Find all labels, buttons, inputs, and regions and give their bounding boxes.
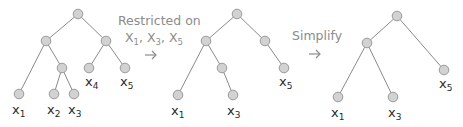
leaf-label: x2 — [47, 102, 60, 119]
tree-node — [362, 38, 372, 48]
tree-node — [201, 36, 211, 46]
tree-edge — [237, 14, 265, 41]
right-arrow-icon — [309, 50, 320, 58]
tree-node — [41, 36, 51, 46]
right-arrow-icon — [145, 51, 156, 59]
tree-edge — [78, 14, 106, 41]
tree-node — [57, 63, 67, 73]
tree-node — [392, 11, 402, 21]
leaf-label: x1 — [331, 105, 344, 122]
tree-node — [217, 63, 227, 73]
tree-node — [260, 36, 270, 46]
step-simplify: Simplify — [292, 28, 343, 58]
leaf-label: x1 — [12, 102, 25, 119]
leaf-label: x5 — [120, 74, 133, 91]
restrict-vars: X1, X3, X5 — [125, 30, 183, 47]
simplify-caption: Simplify — [292, 28, 343, 43]
leaf-label: x5 — [439, 76, 452, 93]
tree-edge — [367, 16, 397, 43]
tree-node — [84, 63, 94, 73]
tree-node — [120, 63, 130, 73]
tree-edge — [367, 43, 393, 97]
leaf-label: x5 — [279, 74, 292, 91]
tree-edge — [19, 41, 46, 94]
tree-restriction-diagram: x1x2x3x4x5x1x3x5x1x3x5 Restricted on X1,… — [0, 0, 463, 127]
tree-edge — [206, 14, 237, 41]
restrict-caption: Restricted on — [118, 13, 201, 28]
tree-node — [439, 65, 449, 75]
tree-node — [388, 92, 398, 102]
leaf-label: x3 — [68, 102, 81, 119]
tree-node — [173, 90, 183, 100]
tree-node — [101, 36, 111, 46]
leaf-label: x3 — [227, 103, 240, 120]
tree-edge — [338, 43, 367, 97]
tree-edge — [46, 14, 78, 41]
leaf-label: x4 — [85, 74, 99, 91]
tree-node — [69, 89, 79, 99]
tree-edge — [397, 16, 444, 70]
tree-node — [279, 63, 289, 73]
tree-node — [49, 89, 59, 99]
tree-nodes — [14, 9, 449, 102]
tree-node — [232, 9, 242, 19]
step-restrict: Restricted on X1, X3, X5 — [118, 13, 201, 59]
tree-node — [228, 90, 238, 100]
leaf-label: x1 — [171, 103, 184, 120]
tree-node — [333, 92, 343, 102]
tree-edge — [178, 41, 206, 95]
tree-node — [14, 89, 24, 99]
tree-edges — [19, 14, 444, 97]
tree-node — [73, 9, 83, 19]
leaf-label: x3 — [388, 105, 401, 122]
diagram-canvas: x1x2x3x4x5x1x3x5x1x3x5 Restricted on X1,… — [0, 0, 463, 127]
